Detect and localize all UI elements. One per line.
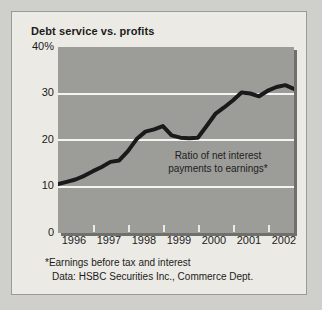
x-tick-label: 2001 <box>229 234 269 246</box>
annotation-line-1: Ratio of net interest <box>144 149 292 162</box>
x-axis: 1996 1997 1998 1999 2000 2001 2002 <box>58 234 300 250</box>
footnote-earnings: *Earnings before tax and interest <box>45 256 253 270</box>
y-axis: 40% 30 20 10 0 <box>12 47 58 233</box>
x-tick-mark <box>233 225 235 232</box>
plot-area: Ratio of net interest payments to earnin… <box>58 47 294 233</box>
x-tick-label: 2002 <box>264 234 304 246</box>
x-tick-label: 1997 <box>89 234 129 246</box>
footnotes: *Earnings before tax and interest Data: … <box>45 256 253 284</box>
y-tick-label: 30 <box>14 86 58 98</box>
y-tick-label: 20 <box>14 133 58 145</box>
plot-wrapper: Ratio of net interest payments to earnin… <box>58 47 294 233</box>
footnote-source: Data: HSBC Securities Inc., Commerce Dep… <box>45 270 253 284</box>
chart-figure: Debt service vs. profits 40% 30 20 10 0 … <box>11 11 307 295</box>
y-tick-label: 10 <box>14 179 58 191</box>
x-tick-mark <box>268 225 270 232</box>
x-tick-label: 1999 <box>159 234 199 246</box>
x-tick-mark <box>93 225 95 232</box>
annotation-line-2: payments to earnings* <box>144 162 292 175</box>
x-tick-mark <box>128 225 130 232</box>
y-tick-label: 0 <box>14 226 58 238</box>
plot-annotation: Ratio of net interest payments to earnin… <box>144 149 292 175</box>
x-tick-mark <box>198 225 200 232</box>
x-tick-mark <box>163 225 165 232</box>
x-tick-label: 1998 <box>124 234 164 246</box>
x-tick-label: 2000 <box>194 234 234 246</box>
x-tick-label: 1996 <box>54 234 94 246</box>
chart-title: Debt service vs. profits <box>31 25 154 37</box>
y-tick-label: 40% <box>14 40 58 52</box>
data-line-series <box>58 47 294 233</box>
